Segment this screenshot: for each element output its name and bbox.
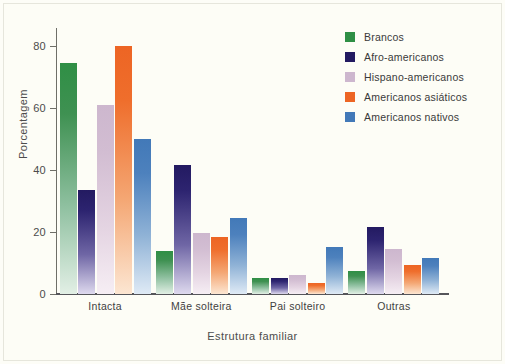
legend-label: Americanos asiáticos: [364, 91, 467, 103]
bar: [115, 46, 132, 294]
x-tick-label: Pai solteiro: [250, 300, 346, 312]
legend: BrancosAfro-americanosHispano-americanos…: [345, 27, 497, 127]
y-axis-label: Porcentagem: [17, 54, 29, 194]
y-tick-label-60: 60: [33, 102, 46, 114]
legend-label: Afro-americanos: [364, 51, 444, 63]
bar: [193, 233, 210, 294]
bar: [211, 237, 228, 294]
bar-group: Intacta: [57, 30, 153, 294]
legend-item: Afro-americanos: [345, 47, 497, 67]
legend-item: Americanos nativos: [345, 107, 497, 127]
x-tick-label: Intacta: [57, 300, 153, 312]
y-tick-20: [50, 232, 56, 233]
x-axis-label: Estrutura familiar: [56, 330, 449, 342]
legend-item: Americanos asiáticos: [345, 87, 497, 107]
y-tick-label-40: 40: [33, 164, 46, 176]
y-tick-40: [50, 170, 56, 171]
legend-swatch-icon: [345, 112, 355, 122]
bar: [134, 139, 151, 294]
x-tick-label: Outras: [346, 300, 442, 312]
legend-swatch-icon: [345, 92, 355, 102]
bar: [422, 258, 439, 294]
legend-swatch-icon: [345, 72, 355, 82]
legend-label: Hispano-americanos: [364, 71, 464, 83]
bar: [230, 218, 247, 294]
bar: [367, 227, 384, 294]
bar: [78, 190, 95, 294]
bar: [385, 249, 402, 294]
legend-swatch-icon: [345, 52, 355, 62]
y-tick-60: [50, 108, 56, 109]
y-tick-label-80: 80: [33, 40, 46, 52]
legend-item: Hispano-americanos: [345, 67, 497, 87]
bar: [404, 265, 421, 295]
y-tick-80: [50, 46, 56, 47]
legend-swatch-icon: [345, 32, 355, 42]
bar: [271, 278, 288, 294]
figure: 020406080 Porcentagem Estrutura familiar…: [0, 0, 505, 364]
bar: [308, 283, 325, 294]
bar: [326, 247, 343, 294]
bar-group: Pai solteiro: [250, 30, 346, 294]
bar: [174, 165, 191, 294]
y-tick-label-0: 0: [40, 288, 46, 300]
y-tick-0: [50, 294, 56, 295]
y-tick-label-20: 20: [33, 226, 46, 238]
bar: [156, 251, 173, 294]
bar: [289, 275, 306, 294]
bar: [252, 278, 269, 294]
legend-item: Brancos: [345, 27, 497, 47]
bar: [97, 105, 114, 294]
legend-label: Brancos: [364, 31, 404, 43]
legend-label: Americanos nativos: [364, 111, 459, 123]
bar-group: Mãe solteira: [153, 30, 249, 294]
x-tick-label: Mãe solteira: [153, 300, 249, 312]
bar: [348, 271, 365, 294]
bar: [60, 63, 77, 294]
